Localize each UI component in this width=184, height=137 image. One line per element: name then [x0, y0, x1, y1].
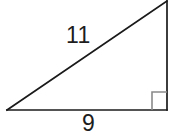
right-triangle-figure: 11 9 [0, 0, 184, 137]
triangle-hypotenuse-side [7, 1, 167, 110]
hypotenuse-length-label: 11 [66, 24, 91, 47]
right-angle-marker-icon [152, 92, 167, 110]
base-length-label: 9 [82, 112, 95, 135]
